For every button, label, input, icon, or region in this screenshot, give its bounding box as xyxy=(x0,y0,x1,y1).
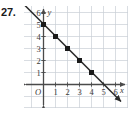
data-point xyxy=(41,22,46,27)
x-tick-label: 2 xyxy=(65,87,69,97)
data-point xyxy=(65,46,70,51)
origin-label: O xyxy=(35,87,41,97)
coordinate-graph-panel: 1 2 3 4 5 6 1 2 3 4 5 6 O x y xyxy=(24,6,128,108)
y-tick-label: 1 xyxy=(36,68,40,78)
y-tick-label: 2 xyxy=(36,56,40,66)
problem-number-label: 27. xyxy=(1,6,16,18)
x-tick-label: 1 xyxy=(53,87,57,97)
graph-figure: 27. xyxy=(0,0,131,115)
y-tick-label: 3 xyxy=(36,44,40,54)
x-tick-label: 5 xyxy=(101,87,105,97)
y-tick-label: 6 xyxy=(36,8,40,18)
data-point xyxy=(53,34,58,39)
data-point xyxy=(77,58,82,63)
data-point xyxy=(89,70,94,75)
x-axis-label: x xyxy=(119,85,124,95)
x-tick-label: 3 xyxy=(77,87,81,97)
coordinate-plane-svg: 1 2 3 4 5 6 1 2 3 4 5 6 O x y xyxy=(24,6,128,108)
y-axis-label: y xyxy=(47,7,52,17)
